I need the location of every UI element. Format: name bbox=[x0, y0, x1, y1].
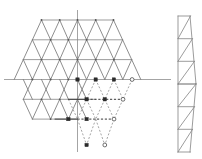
truss-diagonal-1 bbox=[178, 16, 191, 39]
dashed-diag-d-3 bbox=[105, 99, 114, 119]
lattice-diag-f-6 bbox=[114, 60, 123, 80]
dashed-diag-f-1 bbox=[78, 119, 87, 145]
dashed-diag-c-2 bbox=[96, 99, 105, 119]
lattice-diag-e-4 bbox=[68, 60, 77, 80]
truss-right-chord-upper bbox=[190, 16, 196, 84]
lattice-vertex-dot bbox=[41, 98, 43, 100]
lattice-diag-f-1 bbox=[23, 60, 32, 80]
truss-diagonal-2 bbox=[178, 39, 193, 62]
dashed-diag-e-2 bbox=[105, 119, 114, 145]
lattice-diag-b-1 bbox=[42, 20, 51, 40]
lattice-diag-c-1 bbox=[23, 40, 32, 60]
lattice-diag-j-4 bbox=[78, 99, 87, 119]
lattice-vertex-dot bbox=[59, 59, 61, 61]
dashed-diag-e-1 bbox=[87, 119, 96, 145]
node-marked bbox=[85, 117, 88, 120]
dashed-diag-a-3 bbox=[123, 80, 132, 100]
node-marked bbox=[67, 117, 70, 120]
lattice-vertex-dot bbox=[68, 39, 70, 41]
lattice-diag-f-5 bbox=[96, 60, 105, 80]
lattice-vertex-dot bbox=[77, 59, 79, 61]
truss-diagonal-4 bbox=[178, 84, 196, 107]
lattice-diag-j-2 bbox=[42, 99, 51, 119]
lattice-vertex-dot bbox=[95, 19, 97, 21]
lattice-diag-e-1 bbox=[14, 60, 23, 80]
node-open bbox=[130, 78, 134, 82]
lattice-diag-a-1 bbox=[32, 20, 41, 40]
figure-container bbox=[0, 0, 202, 159]
node-marked bbox=[103, 98, 106, 101]
lattice-diag-b-5 bbox=[114, 20, 123, 40]
node-open bbox=[121, 97, 125, 101]
lattice-diag-b-4 bbox=[96, 20, 105, 40]
lattice-diagram-svg bbox=[0, 0, 202, 159]
lattice-diag-a-4 bbox=[87, 20, 96, 40]
lattice-diag-j-1 bbox=[23, 99, 32, 119]
lattice-diag-f-7 bbox=[132, 60, 141, 80]
lattice-diag-d-2 bbox=[51, 40, 60, 60]
lattice-diag-i-1 bbox=[32, 99, 41, 119]
lattice-diag-i-3 bbox=[68, 99, 77, 119]
lattice-diag-d-3 bbox=[68, 40, 77, 60]
lattice-diag-b-3 bbox=[78, 20, 87, 40]
lattice-vertex-dot bbox=[50, 118, 52, 120]
lattice-diag-c-3 bbox=[60, 40, 69, 60]
lattice-diag-a-5 bbox=[105, 20, 114, 40]
truss-diagonal-3 bbox=[178, 61, 195, 84]
lattice-vertex-dot bbox=[113, 19, 115, 21]
lattice-diag-b-2 bbox=[60, 20, 69, 40]
lattice-diag-c-4 bbox=[78, 40, 87, 60]
marked-nodes-group bbox=[67, 78, 134, 147]
lattice-vertex-dot bbox=[50, 39, 52, 41]
lattice-vertex-dot bbox=[59, 98, 61, 100]
node-marked bbox=[76, 78, 79, 81]
lattice-vertex-dot bbox=[86, 39, 88, 41]
lattice-diag-d-5 bbox=[105, 40, 114, 60]
lattice-diag-a-2 bbox=[51, 20, 60, 40]
dashed-diag-b-3 bbox=[114, 80, 123, 100]
lattice-diag-e-3 bbox=[51, 60, 60, 80]
node-marked bbox=[112, 78, 115, 81]
node-open bbox=[103, 143, 107, 147]
lattice-vertex-dot bbox=[50, 79, 52, 81]
node-marked bbox=[85, 98, 88, 101]
lattice-vertex-dot bbox=[32, 79, 34, 81]
lattice-diag-e-6 bbox=[105, 60, 114, 80]
lattice-diag-a-3 bbox=[68, 20, 77, 40]
lattice-diag-e-7 bbox=[123, 60, 132, 80]
dashed-diag-c-3 bbox=[114, 99, 123, 119]
lattice-diag-f-2 bbox=[42, 60, 51, 80]
node-marked bbox=[94, 78, 97, 81]
lattice-diag-e-5 bbox=[87, 60, 96, 80]
lattice-vertex-dot bbox=[41, 59, 43, 61]
dashed-diag-d-2 bbox=[87, 99, 96, 119]
lattice-vertex-dot bbox=[68, 79, 70, 81]
lattice-diag-j-3 bbox=[60, 99, 69, 119]
dashed-diag-a-1 bbox=[87, 80, 96, 100]
lattice-diag-i-2 bbox=[51, 99, 60, 119]
lattice-diag-d-4 bbox=[87, 40, 96, 60]
lattice-diag-c-6 bbox=[114, 40, 123, 60]
lattice-diag-d-1 bbox=[32, 40, 41, 60]
lattice-vertex-dot bbox=[95, 59, 97, 61]
dashed-diag-a-2 bbox=[105, 80, 114, 100]
lattice-vertex-dot bbox=[104, 39, 106, 41]
lattice-vertex-dot bbox=[77, 19, 79, 21]
node-open bbox=[112, 117, 116, 121]
lattice-diag-f-4 bbox=[78, 60, 87, 80]
lattice-diag-f-3 bbox=[60, 60, 69, 80]
dashed-diag-b-2 bbox=[96, 80, 105, 100]
lattice-vertex-dot bbox=[41, 19, 43, 21]
axes-group bbox=[4, 10, 171, 152]
vertical-truss-group bbox=[178, 16, 196, 152]
lattice-vertex-dot bbox=[59, 19, 61, 21]
lattice-diag-e-2 bbox=[32, 60, 41, 80]
dashed-diag-f-2 bbox=[96, 119, 105, 145]
lattice-vertex-dot bbox=[113, 59, 115, 61]
truss-right-chord-lower bbox=[190, 84, 196, 152]
lattice-diag-d-6 bbox=[123, 40, 132, 60]
dashed-sublattice-group bbox=[55, 80, 132, 146]
lattice-diag-c-5 bbox=[96, 40, 105, 60]
node-marked bbox=[85, 143, 88, 146]
lattice-diag-c-2 bbox=[42, 40, 51, 60]
